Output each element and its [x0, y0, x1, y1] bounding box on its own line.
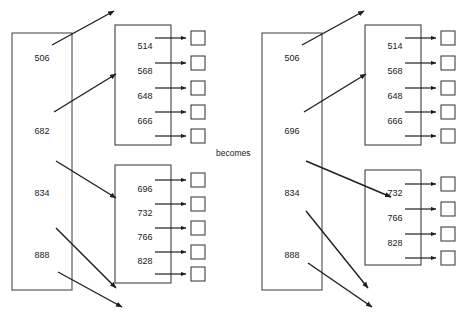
child-upper-key-after-1: 568	[387, 66, 402, 76]
parent-key-before-3: 888	[34, 250, 49, 260]
parent-key-after-2: 834	[284, 188, 299, 198]
parent-pointer-after-0	[302, 11, 364, 45]
parent-pointer-after-1	[304, 74, 366, 112]
child-lower-key-after-2: 828	[387, 238, 402, 248]
child-upper-key-before-3: 666	[137, 116, 152, 126]
parent-pointer-after-2	[306, 161, 391, 197]
parent-pointer-after-3	[306, 211, 368, 288]
parent-pointer-before-0	[52, 11, 114, 45]
parent-pointer-before-1	[54, 74, 116, 112]
child-upper-after-pointers	[405, 31, 455, 143]
parent-pointer-before-2	[56, 161, 116, 198]
child-lower-key-before-2: 766	[137, 232, 152, 242]
child-lower-after-pointers	[405, 177, 455, 265]
child-lower-key-before-0: 696	[137, 184, 152, 194]
parent-pointer-after-4	[308, 263, 372, 307]
diagram-canvas: 506 682 834 888 514 568 648 666	[0, 0, 464, 320]
child-lower-key-after-0: 732	[387, 188, 402, 198]
parent-key-after-1: 696	[284, 126, 299, 136]
child-upper-key-before-2: 648	[137, 91, 152, 101]
btree-split-diagram: 506 682 834 888 514 568 648 666	[0, 0, 464, 320]
child-upper-key-before-0: 514	[137, 41, 152, 51]
child-upper-key-after-0: 514	[387, 41, 402, 51]
parent-key-after-3: 888	[284, 250, 299, 260]
parent-key-before-0: 506	[34, 53, 49, 63]
parent-key-before-2: 834	[34, 188, 49, 198]
becomes-caption: becomes	[216, 148, 251, 158]
parent-key-after-0: 506	[284, 53, 299, 63]
child-upper-key-after-3: 666	[387, 116, 402, 126]
child-lower-key-after-1: 766	[387, 213, 402, 223]
child-upper-key-after-2: 648	[387, 91, 402, 101]
child-upper-before-pointers	[155, 31, 205, 143]
child-lower-key-before-3: 828	[137, 256, 152, 266]
parent-key-before-1: 682	[34, 126, 49, 136]
child-lower-key-before-1: 732	[137, 208, 152, 218]
parent-pointer-before-3	[56, 228, 116, 288]
child-upper-key-before-1: 568	[137, 66, 152, 76]
child-lower-before-pointers	[155, 173, 205, 281]
